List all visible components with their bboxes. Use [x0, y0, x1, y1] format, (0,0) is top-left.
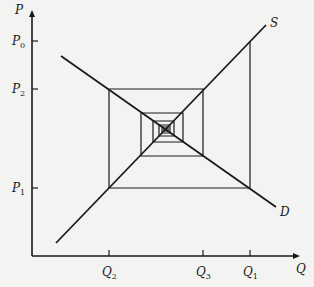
x-axis-arrow-icon — [293, 253, 300, 259]
demand-curve — [61, 56, 276, 207]
x-axis-label: Q — [296, 262, 306, 276]
y-tick-label-P2: P2 — [11, 82, 25, 98]
cobweb-diagram: PQP0P2P1Q2Q3Q1SD — [0, 0, 314, 287]
x-tick-label-Q3: Q3 — [196, 265, 211, 281]
supply-label: S — [270, 16, 278, 30]
x-tick-label-Q1: Q1 — [243, 265, 258, 281]
y-axis-arrow-icon — [29, 10, 35, 17]
y-tick-label-P0: P0 — [11, 34, 25, 50]
demand-label: D — [279, 205, 290, 219]
cobweb-chart-svg: PQP0P2P1Q2Q3Q1SD — [0, 0, 314, 287]
x-tick-label-Q2: Q2 — [102, 265, 117, 281]
supply-curve — [56, 25, 266, 243]
y-axis-label: P — [14, 3, 24, 17]
y-tick-label-P1: P1 — [11, 181, 25, 197]
